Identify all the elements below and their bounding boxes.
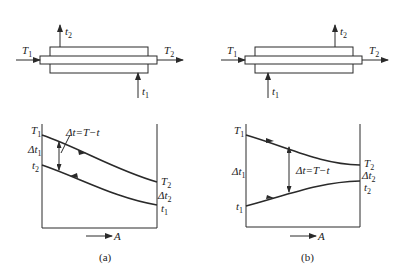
axis-label-A-b: A: [317, 230, 325, 242]
label-cold-out: t2: [340, 25, 347, 40]
cold-curve-a: [42, 165, 157, 205]
label-t1-b: t1: [236, 200, 243, 215]
label-T1-a: T1: [31, 124, 41, 139]
label-dt2-a: Δt2: [157, 189, 172, 204]
label-hot-in: T1: [22, 44, 32, 59]
label-t1-a: t1: [161, 202, 168, 217]
label-hot-out: T2: [369, 44, 379, 59]
exchanger-b: T1 T2 t2 t1: [221, 25, 388, 100]
delta-formula-a: Δt=T−t: [65, 126, 100, 138]
tube-a: [40, 56, 157, 64]
label-cold-out: t2: [65, 25, 72, 40]
plot-b: T1 Δt1 t1 Δt=T−t T2 Δt2 t2 A (b): [231, 124, 376, 264]
label-T1-b: T1: [234, 124, 244, 139]
label-hot-out: T2: [164, 44, 174, 59]
label-t2-a: t2: [32, 159, 39, 174]
axis-label-A-a: A: [113, 230, 121, 242]
plot-a: T1 Δt1 t2 Δt=T−t T2 Δt2 t1 A (a): [27, 124, 172, 264]
cold-curve-b: [246, 181, 360, 206]
tube-b: [245, 56, 362, 64]
delta-formula-b: Δt=T−t: [295, 164, 330, 176]
label-T2-a: T2: [161, 175, 171, 190]
label-dt1-a: Δt1: [27, 143, 42, 158]
label-cold-in: t1: [272, 85, 279, 100]
hot-curve-b: [246, 135, 360, 165]
label-cold-in: t1: [142, 85, 149, 100]
label-t2-b: t2: [364, 181, 371, 196]
caption-a: (a): [99, 251, 112, 264]
heat-exchanger-figure: T1 T2 t2 t1 T1 Δt1 t2 Δt=T−t T2 Δt2 t1 A…: [0, 0, 403, 279]
caption-b: (b): [301, 251, 314, 264]
label-hot-in: T1: [227, 44, 237, 59]
exchanger-a: T1 T2 t2 t1: [16, 25, 183, 100]
label-dt1-b: Δt1: [231, 165, 246, 180]
